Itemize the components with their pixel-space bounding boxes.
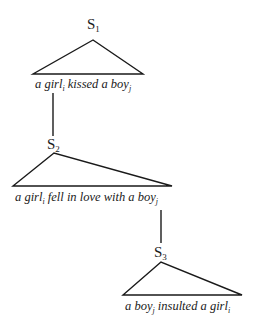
- node-label-s1-subscript: 1: [95, 24, 100, 34]
- sentence-s2-part1: a girl: [15, 190, 42, 204]
- s1-triangle: [33, 40, 143, 74]
- sentence-s2: a girli fell in love with a boyj: [15, 191, 158, 206]
- sentence-s1: a girli kissed a boyj: [35, 78, 131, 93]
- s3-triangle: [123, 262, 242, 295]
- node-label-s3-subscript: 3: [162, 252, 167, 262]
- sentence-s3-part2: insulted a girl: [155, 299, 228, 313]
- sentence-s2-part2: fell in love with a boy: [45, 190, 156, 204]
- diagram-lines: [0, 0, 258, 329]
- sentence-s2-index2: j: [156, 197, 158, 206]
- node-label-s2: S2: [47, 137, 60, 154]
- node-label-s3: S3: [154, 245, 167, 262]
- node-label-s2-subscript: 2: [55, 144, 60, 154]
- sentence-s3: a boyj insulted a girli: [125, 300, 230, 315]
- sentence-s1-part2: kissed a boy: [65, 77, 129, 91]
- sentence-s1-part1: a girl: [35, 77, 62, 91]
- sentence-s3-part1: a boy: [125, 299, 152, 313]
- sentence-s3-index2: i: [228, 306, 230, 315]
- sentence-tree-diagram: S1 a girli kissed a boyj S2 a girli fell…: [0, 0, 258, 329]
- sentence-s1-index2: j: [129, 84, 131, 93]
- s2-triangle: [13, 153, 172, 186]
- node-label-s1: S1: [87, 17, 100, 34]
